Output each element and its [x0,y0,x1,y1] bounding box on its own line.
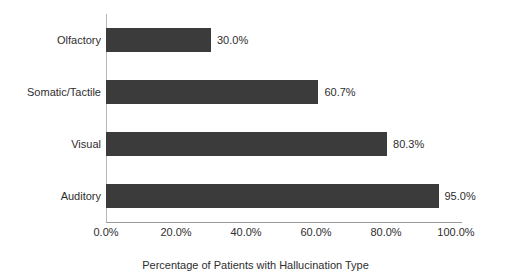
bar-row: Auditory95.0% [106,170,456,222]
x-axis-title: Percentage of Patients with Hallucinatio… [0,259,511,272]
bar [106,184,439,208]
x-tick-label: 100.0% [437,226,474,239]
category-label: Olfactory [57,34,101,47]
chart-screenshot: Olfactory30.0%Somatic/Tactile60.7%Visual… [0,0,511,280]
bar [106,28,211,52]
category-label: Somatic/Tactile [27,86,101,99]
x-tick-label: 0.0% [93,226,118,239]
x-tick-label: 80.0% [370,226,401,239]
plot-area: Olfactory30.0%Somatic/Tactile60.7%Visual… [106,14,456,222]
bar-value-label: 30.0% [217,34,248,47]
category-label: Auditory [61,190,101,203]
bar-value-label: 95.0% [445,190,476,203]
x-tick-label: 40.0% [230,226,261,239]
bar [106,80,318,104]
x-tick-label: 20.0% [160,226,191,239]
bar [106,132,387,156]
bar-row: Somatic/Tactile60.7% [106,66,456,118]
bar-value-label: 60.7% [324,86,355,99]
bar-row: Visual80.3% [106,118,456,170]
bar-value-label: 80.3% [393,138,424,151]
category-label: Visual [71,138,101,151]
x-tick-label: 60.0% [300,226,331,239]
bar-row: Olfactory30.0% [106,14,456,66]
x-axis-line [106,222,462,223]
